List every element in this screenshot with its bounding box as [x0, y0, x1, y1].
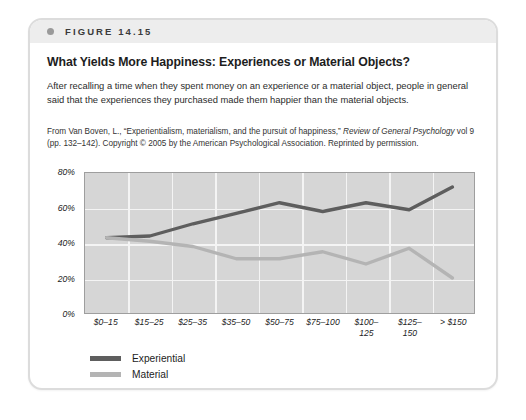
figure-source-note: From Van Boven, L., “Experientialism, ma… — [47, 126, 479, 150]
y-axis-tick: 20% — [58, 274, 75, 284]
figure-number-label: FIGURE 14.15 — [65, 26, 153, 37]
chart-legend: ExperientialMaterial — [90, 350, 185, 382]
x-axis-tick-line: > $150 — [427, 317, 479, 328]
y-axis-tick: 60% — [58, 203, 75, 213]
figure-card: FIGURE 14.15 What Yields More Happiness:… — [28, 18, 498, 390]
legend-swatch-icon — [90, 372, 121, 377]
x-axis-tick-labels: $0–15$15–25$25–35$35–50$50–75$75–100$100… — [84, 317, 475, 347]
bullet-dot-icon — [47, 28, 54, 35]
series-line-experiential — [107, 187, 453, 238]
y-axis-tick: 80% — [58, 167, 75, 177]
y-axis-tick: 40% — [58, 238, 75, 248]
source-text-prefix: From Van Boven, L., “Experientialism, ma… — [47, 127, 343, 136]
figure-headline: What Yields More Happiness: Experiences … — [47, 55, 487, 69]
legend-swatch-icon — [90, 356, 121, 361]
x-axis-tick: > $150 — [427, 317, 479, 328]
figure-header-band: FIGURE 14.15 — [30, 20, 496, 43]
y-axis-tick: 0% — [63, 309, 75, 319]
legend-item-material: Material — [90, 366, 185, 382]
x-axis-tick-line: 150 — [384, 328, 436, 339]
figure-caption: After recalling a time when they spent m… — [47, 79, 471, 106]
legend-item-experiential: Experiential — [90, 350, 185, 366]
legend-label: Experiential — [132, 353, 185, 364]
line-chart: 0%20%40%60%80% $0–15$15–25$25–35$35–50$5… — [47, 172, 487, 322]
legend-label: Material — [132, 369, 168, 380]
source-journal-title: Review of General Psychology — [343, 127, 455, 136]
chart-series-group — [85, 173, 474, 313]
y-axis-tick-labels: 0%20%40%60%80% — [47, 172, 79, 314]
plot-area — [84, 172, 475, 314]
series-line-material — [107, 238, 453, 278]
